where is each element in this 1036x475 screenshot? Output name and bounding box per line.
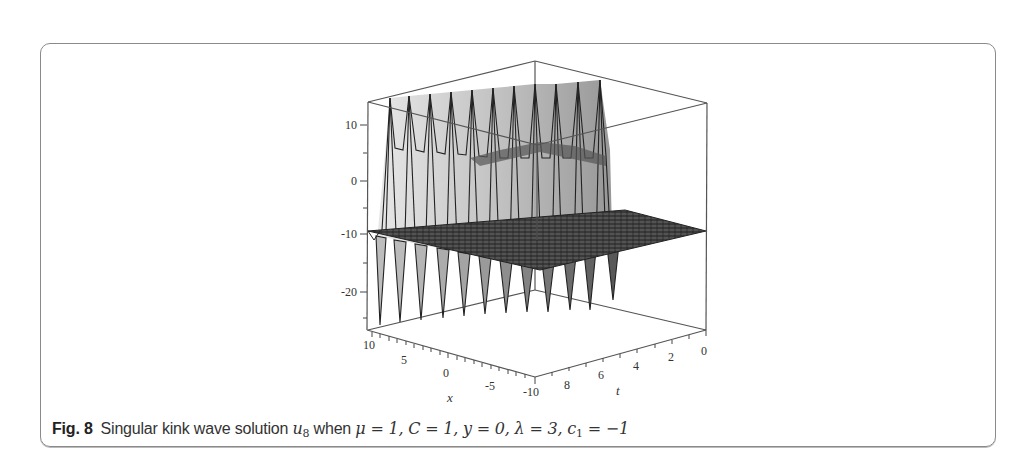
t-axis-label: t: [616, 383, 620, 398]
t-tick-6: 6: [598, 368, 604, 382]
caption-parameters-subscript: 1: [576, 427, 583, 440]
z-tick-10: 10: [345, 118, 357, 132]
surface-plot: 10 0 -10 -20 10 5 0 -5 -10 x 8 6 4 2 0 t: [0, 0, 1036, 475]
t-tick-4: 4: [633, 359, 639, 373]
x-axis: [372, 332, 535, 384]
x-tick-5: 5: [401, 353, 407, 367]
x-tick-neg5: -5: [485, 379, 495, 393]
x-axis-label: x: [446, 390, 453, 405]
caption-variable: u: [292, 419, 302, 438]
t-tick-0: 0: [701, 344, 707, 358]
x-tick-neg10: -10: [523, 385, 539, 399]
x-tick-10: 10: [363, 338, 375, 352]
z-tick-neg10: -10: [341, 227, 357, 241]
t-tick-8: 8: [564, 378, 570, 392]
z-tick-neg20: -20: [341, 285, 357, 299]
z-tick-0: 0: [351, 174, 357, 188]
caption-text: Singular kink wave solution: [101, 420, 293, 437]
figure-label: Fig. 8: [52, 420, 93, 437]
caption-parameters-end: = −1: [583, 419, 629, 438]
t-tick-2: 2: [668, 350, 674, 364]
z-axis: [360, 125, 367, 318]
figure-caption: Fig. 8Singular kink wave solution u8 whe…: [52, 419, 629, 440]
x-tick-0: 0: [443, 366, 449, 380]
caption-parameters: μ = 1, C = 1, y = 0, λ = 3, c: [355, 419, 576, 438]
caption-when: when: [309, 420, 355, 437]
